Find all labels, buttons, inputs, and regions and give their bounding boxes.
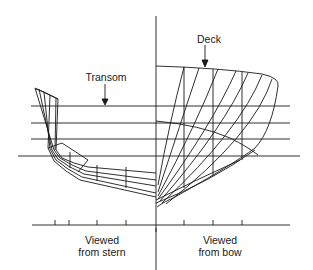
transom-arrow <box>102 84 108 105</box>
bow-sections <box>156 66 278 207</box>
baseline-ticks <box>55 220 242 232</box>
bow-caption-line2: from bow <box>180 246 260 258</box>
stern-view-caption: Viewed from stern <box>62 234 142 258</box>
deck-label: Deck <box>191 33 227 45</box>
transom-label: Transom <box>82 71 130 83</box>
deck-arrow <box>202 45 208 67</box>
bow-caption-line1: Viewed <box>180 234 260 246</box>
stern-caption-line1: Viewed <box>62 234 142 246</box>
stern-caption-line2: from stern <box>62 246 142 258</box>
bow-view-caption: Viewed from bow <box>180 234 260 258</box>
body-plan-diagram: Transom Deck Viewed from stern Viewed fr… <box>0 0 313 270</box>
hull-lines-drawing <box>0 0 313 270</box>
stern-sections <box>35 88 156 197</box>
